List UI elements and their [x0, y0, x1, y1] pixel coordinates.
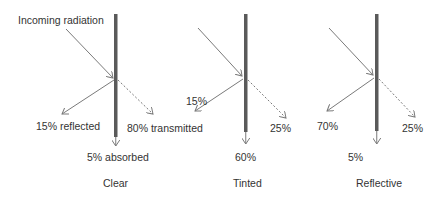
- reflected-label-clear: 15% reflected: [36, 120, 100, 132]
- reflected-arrow-clear: [62, 80, 114, 114]
- incoming-radiation-label: Incoming radiation: [18, 14, 104, 26]
- transmitted-arrow-clear: [118, 80, 153, 114]
- reflected-label-reflective: 70%: [317, 120, 338, 132]
- glazing-diagram: [0, 0, 438, 198]
- absorbed-label-tinted: 60%: [235, 151, 256, 163]
- reflected-arrow-reflective: [327, 78, 374, 111]
- absorbed-label-clear: 5% absorbed: [87, 151, 149, 163]
- incoming-arrow-reflective: [329, 28, 373, 75]
- panel-title-reflective: Reflective: [356, 177, 402, 189]
- incoming-arrow-clear: [66, 29, 113, 78]
- transmitted-arrow-tinted: [248, 80, 286, 118]
- transmitted-label-clear: 80% transmitted: [127, 122, 203, 134]
- panel-title-clear: Clear: [103, 177, 128, 189]
- reflected-label-tinted: 15%: [186, 95, 207, 107]
- glass-pane-tinted: [244, 14, 248, 132]
- incoming-arrow-tinted: [198, 28, 242, 76]
- glass-pane-reflective: [375, 14, 379, 131]
- glass-pane-clear: [114, 14, 118, 137]
- transmitted-arrow-reflective: [379, 79, 415, 117]
- panel-title-tinted: Tinted: [233, 177, 262, 189]
- transmitted-label-tinted: 25%: [270, 122, 291, 134]
- transmitted-label-reflective: 25%: [402, 122, 423, 134]
- absorbed-label-reflective: 5%: [348, 151, 363, 163]
